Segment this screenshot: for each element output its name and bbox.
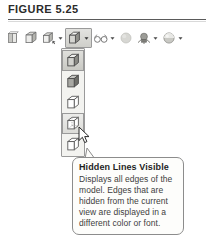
visual-styles-toolbar [4, 27, 210, 49]
cube-hidden-icon [65, 136, 82, 153]
toolbar-button-3d-hidden[interactable] [40, 28, 65, 48]
cube-realistic-icon [65, 52, 82, 69]
toolbar-button-render[interactable] [117, 28, 135, 48]
tooltip-title: Hidden Lines Visible [79, 162, 178, 173]
cube-conceptual-icon [65, 73, 82, 90]
cube-wireframe-icon [65, 94, 82, 111]
toolbar-button-2d-wireframe[interactable] [4, 28, 22, 48]
visual-style-dropdown [61, 48, 85, 157]
chevron-down-icon[interactable] [177, 30, 184, 46]
sphere-material-icon [161, 30, 177, 46]
dropdown-item-3d-wireframe[interactable] [62, 92, 84, 113]
dropdown-item-realistic[interactable] [62, 50, 84, 71]
cube-3d-wireframe-icon [23, 30, 39, 46]
cube-2d-wireframe-icon [5, 30, 21, 46]
chevron-down-icon[interactable] [83, 30, 90, 46]
lights-icon [136, 30, 152, 46]
sphere-plain-icon [118, 30, 134, 46]
chevron-down-icon[interactable] [152, 30, 159, 46]
dropdown-item-hidden-lines-visible[interactable] [62, 113, 84, 134]
toolbar-button-3d-wireframe[interactable] [22, 28, 40, 48]
chevron-down-icon[interactable] [57, 30, 64, 46]
cube-3d-hidden-icon [41, 30, 57, 46]
dropdown-item-hidden[interactable] [62, 134, 84, 155]
tooltip-body: Displays all edges of the model. Edges t… [79, 174, 178, 229]
caption-divider [8, 19, 206, 20]
figure-caption: FIGURE 5.25 [8, 3, 78, 15]
toolbar-button-visual-style-manager[interactable] [92, 28, 117, 48]
cube-shaded-icon [67, 30, 83, 46]
dropdown-item-conceptual[interactable] [62, 71, 84, 92]
toolbar-button-visual-style[interactable] [65, 28, 92, 48]
chevron-down-icon[interactable] [109, 30, 116, 46]
caption-divider-shadow [8, 21, 206, 22]
toolbar-button-materials[interactable] [160, 28, 185, 48]
toolbar-button-lights[interactable] [135, 28, 160, 48]
tooltip: Hidden Lines Visible Displays all edges … [72, 157, 184, 235]
cube-hidden-lines-icon [65, 115, 82, 132]
glasses-icon [93, 30, 109, 46]
